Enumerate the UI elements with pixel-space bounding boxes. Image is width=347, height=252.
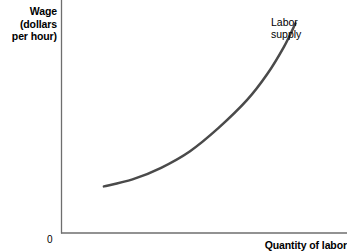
y-axis-title-line-2: (dollars <box>0 18 57 31</box>
y-axis-title-line-1: Wage <box>0 5 57 18</box>
origin-label: 0 <box>47 234 53 246</box>
labor-supply-annotation-line-1: Labor <box>271 16 301 28</box>
x-axis-title: Quantity of labor <box>265 239 347 251</box>
labor-supply-curve <box>104 23 296 186</box>
labor-supply-chart: Wage (dollars per hour) Quantity of labo… <box>0 0 347 252</box>
labor-supply-annotation-line-2: supply <box>271 28 301 40</box>
labor-supply-annotation: Labor supply <box>271 16 301 41</box>
y-axis-title-line-3: per hour) <box>0 30 57 43</box>
y-axis-title: Wage (dollars per hour) <box>0 5 57 43</box>
